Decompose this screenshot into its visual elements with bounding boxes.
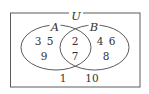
element-A-and-B-7: 7 [72,50,79,62]
element-only-A-5: 5 [47,35,54,47]
element-only-B-6: 6 [109,35,116,47]
set-b-label: B [89,20,98,34]
venn-diagram: U A B 35927468110 [0,0,149,94]
element-only-A-9: 9 [41,50,48,62]
element-outside-10: 10 [85,72,98,84]
element-only-B-4: 4 [97,35,104,47]
element-A-and-B-2: 2 [72,35,79,47]
element-only-B-8: 8 [103,50,110,62]
element-only-A-3: 3 [35,35,42,47]
universe-label: U [71,9,81,23]
element-outside-1: 1 [60,72,67,84]
set-a-label: A [50,20,59,34]
region-elements: 35927468110 [35,35,116,84]
